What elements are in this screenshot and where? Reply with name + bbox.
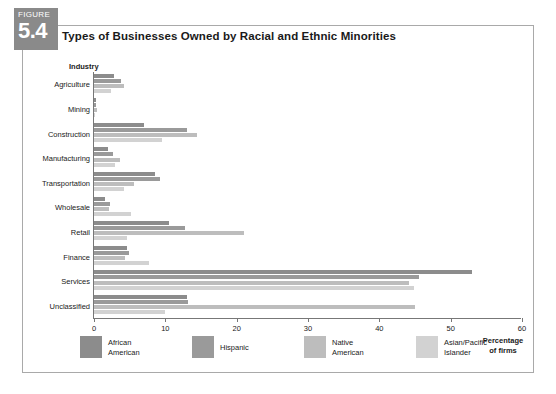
bar — [94, 128, 187, 132]
bar — [94, 89, 111, 93]
bar — [94, 172, 155, 176]
bar — [94, 182, 134, 186]
x-axis-tick — [451, 318, 452, 322]
bar — [94, 212, 131, 216]
y-axis-tick-label: Unclassified — [24, 302, 90, 311]
y-axis-tick-label: Retail — [24, 228, 90, 237]
x-axis-tick — [237, 318, 238, 322]
bar — [94, 281, 409, 285]
bar — [94, 270, 472, 274]
y-axis-tick-label: Mining — [24, 105, 90, 114]
bar — [94, 123, 144, 127]
bar — [94, 286, 414, 290]
bar — [94, 305, 415, 309]
x-axis-caption-line2: of firms — [489, 346, 517, 355]
figure-number-badge: FIGURE 5.4 — [14, 8, 58, 50]
bar — [94, 310, 165, 314]
y-axis-tick-label: Services — [24, 277, 90, 286]
bar — [94, 84, 124, 88]
bar — [94, 138, 162, 142]
x-axis-tick — [165, 318, 166, 322]
legend-label-line2: American — [332, 348, 364, 358]
bar — [94, 275, 419, 279]
x-axis-tick — [522, 318, 523, 322]
legend-label-line1: Hispanic — [220, 343, 249, 352]
y-axis-tick-label: Manufacturing — [24, 154, 90, 163]
bar — [94, 133, 197, 137]
bar — [94, 74, 114, 78]
legend-label-line1: Native — [332, 338, 353, 347]
bar — [94, 251, 129, 255]
bar — [94, 147, 108, 151]
y-axis-title: Industry — [69, 62, 99, 71]
legend-label: AfricanAmerican — [108, 338, 140, 357]
legend-swatch — [304, 336, 326, 358]
x-axis-tick — [379, 318, 380, 322]
bar — [94, 261, 149, 265]
x-axis-tick — [94, 318, 95, 322]
bar — [94, 226, 185, 230]
legend-label-line2: American — [108, 348, 140, 358]
chart-legend: AfricanAmericanHispanicNativeAmericanAsi… — [22, 330, 534, 374]
bar — [94, 221, 169, 225]
bar — [94, 152, 113, 156]
bar — [94, 177, 160, 181]
x-axis-tick — [308, 318, 309, 322]
bar — [94, 79, 121, 83]
legend-swatch — [80, 336, 102, 358]
bar — [94, 256, 125, 260]
legend-swatch — [192, 336, 214, 358]
y-axis-tick-labels: AgricultureMiningConstructionManufacturi… — [22, 72, 90, 318]
bar-series-container — [94, 72, 522, 318]
title-divider — [58, 25, 534, 26]
plot-area: Industry AgricultureMiningConstructionMa… — [22, 56, 534, 346]
x-axis-caption: Percentage of firms — [470, 336, 536, 356]
bar — [94, 187, 124, 191]
bar — [94, 202, 110, 206]
legend-swatch — [416, 336, 438, 358]
bar — [94, 231, 244, 235]
legend-label: NativeAmerican — [332, 338, 364, 357]
figure-badge-number: 5.4 — [18, 19, 58, 43]
bar — [94, 103, 96, 107]
x-axis-line — [93, 318, 521, 319]
bar — [94, 108, 97, 112]
chart-title: Types of Businesses Owned by Racial and … — [62, 30, 522, 42]
legend-label: Hispanic — [220, 343, 249, 353]
y-axis-tick-label: Finance — [24, 253, 90, 262]
bar — [94, 98, 96, 102]
x-axis-caption-line1: Percentage — [483, 336, 523, 345]
bar — [94, 246, 127, 250]
y-axis-tick-label: Wholesale — [24, 203, 90, 212]
bar — [94, 163, 115, 167]
y-axis-tick-label: Transportation — [24, 179, 90, 188]
y-axis-tick-label: Construction — [24, 130, 90, 139]
bar — [94, 295, 187, 299]
y-axis-tick-label: Agriculture — [24, 80, 90, 89]
legend-label-line1: African — [108, 338, 131, 347]
figure-root: FIGURE 5.4 Types of Businesses Owned by … — [0, 0, 556, 394]
bar — [94, 158, 120, 162]
bar — [94, 300, 188, 304]
bar — [94, 113, 95, 117]
bar — [94, 236, 127, 240]
bar — [94, 197, 105, 201]
bar — [94, 207, 109, 211]
